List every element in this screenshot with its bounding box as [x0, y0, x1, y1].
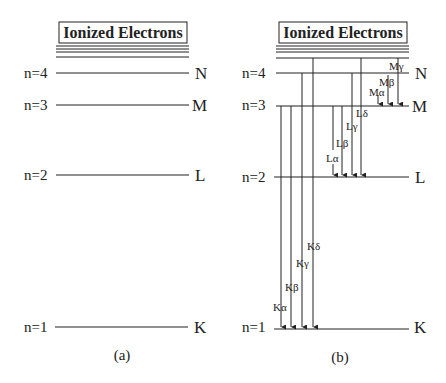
n-label: n=4 [24, 65, 48, 81]
n-label: n=3 [24, 97, 47, 113]
m-series-transitions: Mα Mβ Mγ [369, 58, 404, 104]
level-n2-b: n=2 L [242, 168, 425, 187]
k-beta-label: Kβ [285, 281, 299, 293]
shell-label: L [415, 168, 425, 187]
shell-label: N [195, 64, 207, 83]
shell-label: M [412, 97, 427, 116]
m-gamma-label: Mγ [389, 60, 404, 72]
k-gamma-label: Kγ [296, 257, 309, 269]
ionized-electrons-box-a: Ionized Electrons [56, 22, 189, 57]
l-alpha-label: Lα [326, 152, 339, 164]
panel-b: Ionized Electrons n=4 N n=3 M n=2 L n=1 … [242, 22, 427, 366]
caption-b: (b) [331, 349, 349, 366]
shell-label: N [415, 64, 427, 83]
level-n3-b: n=3 M [242, 97, 427, 116]
n-label: n=2 [24, 167, 47, 183]
n-label: n=3 [242, 97, 265, 113]
n-label: n=4 [242, 65, 266, 81]
n-label: n=2 [242, 169, 265, 185]
l-series-transitions: Lα Lβ Lγ Lδ [326, 58, 368, 175]
m-beta-label: Mβ [379, 76, 395, 88]
box-title-a: Ionized Electrons [63, 24, 182, 41]
l-gamma-label: Lγ [346, 120, 358, 132]
box-title-b: Ionized Electrons [283, 24, 402, 41]
n-label: n=1 [24, 319, 47, 335]
k-alpha-label: Kα [273, 301, 287, 313]
level-n2-a: n=2 L [24, 166, 205, 185]
level-n1-b: n=1 K [242, 318, 427, 337]
shell-label: K [194, 318, 207, 337]
caption-a: (a) [114, 347, 131, 364]
l-delta-label: Lδ [356, 107, 368, 119]
l-beta-label: Lβ [336, 137, 349, 149]
level-n4-a: n=4 N [24, 64, 207, 83]
level-n3-a: n=3 M [24, 96, 207, 115]
k-delta-label: Kδ [307, 240, 320, 252]
panel-a: Ionized Electrons n=4 N n=3 M n=2 L n=1 [24, 22, 207, 364]
level-n1-a: n=1 K [24, 318, 207, 337]
energy-level-diagram: Ionized Electrons n=4 N n=3 M n=2 L n=1 [0, 0, 446, 383]
shell-label: L [195, 166, 205, 185]
shell-label: M [192, 96, 207, 115]
shell-label: K [414, 318, 427, 337]
n-label: n=1 [242, 319, 265, 335]
ionized-electrons-box-b: Ionized Electrons [276, 22, 409, 58]
k-series-transitions: Kα Kβ Kγ Kδ [273, 58, 320, 327]
